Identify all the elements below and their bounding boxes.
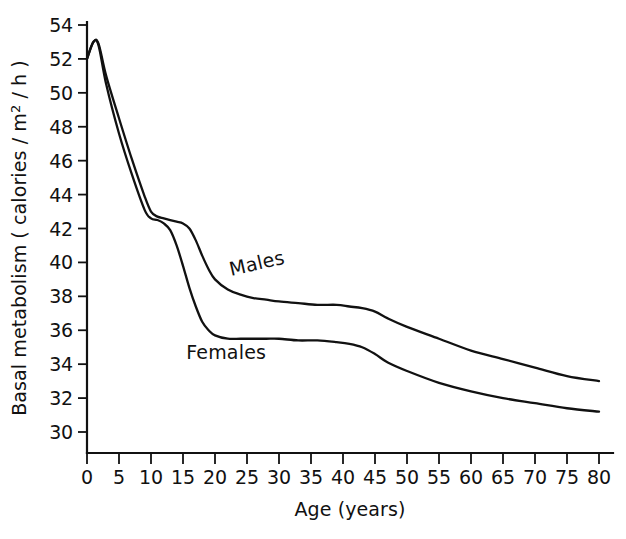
x-tick-label: 80 — [587, 466, 611, 488]
series-line-females — [87, 40, 599, 412]
x-tick-label: 10 — [139, 466, 163, 488]
y-tick-label: 38 — [49, 285, 73, 307]
x-tick-label: 55 — [427, 466, 451, 488]
x-tick-label: 25 — [235, 466, 259, 488]
x-axis-title: Age (years) — [295, 498, 406, 520]
x-tick-label: 75 — [555, 466, 579, 488]
axes-group — [87, 22, 613, 453]
y-tick-label: 30 — [49, 421, 73, 443]
y-axis-title-suffix: / h ) — [8, 60, 30, 105]
y-tick-label: 34 — [49, 353, 73, 375]
x-tick-label: 15 — [171, 466, 195, 488]
y-tick-label: 32 — [49, 387, 73, 409]
x-tick-label: 40 — [331, 466, 355, 488]
x-tick-label: 45 — [363, 466, 387, 488]
basal-metabolism-line-chart: 30323436384042444648505254 0510152025303… — [0, 0, 626, 539]
figure-container: 30323436384042444648505254 0510152025303… — [0, 0, 626, 539]
y-axis-title: Basal metabolism ( calories / m2 / h ) — [8, 60, 30, 416]
series-labels-group: Males Females — [186, 246, 286, 363]
x-tick-label: 30 — [267, 466, 291, 488]
series-line-males — [87, 40, 599, 381]
y-tick-label: 42 — [49, 218, 73, 240]
y-tick-label: 36 — [49, 319, 73, 341]
y-tick-label: 54 — [49, 14, 73, 36]
series-label-males: Males — [227, 246, 286, 280]
y-axis-ticks: 30323436384042444648505254 — [49, 14, 87, 443]
y-tick-label: 50 — [49, 82, 73, 104]
x-tick-label: 35 — [299, 466, 323, 488]
y-tick-label: 48 — [49, 116, 73, 138]
series-group — [87, 40, 599, 412]
x-tick-label: 60 — [459, 466, 483, 488]
x-tick-label: 65 — [491, 466, 515, 488]
series-label-females: Females — [186, 341, 266, 363]
x-axis-ticks: 05101520253035404550556065707580 — [81, 453, 611, 488]
y-axis-title-superscript: 2 — [8, 105, 23, 113]
y-axis-title-prefix: Basal metabolism ( calories / m — [8, 113, 30, 416]
y-tick-label: 46 — [49, 150, 73, 172]
x-tick-label: 20 — [203, 466, 227, 488]
y-axis-title-group: Basal metabolism ( calories / m2 / h ) — [8, 60, 30, 416]
page-edge-artifact — [0, 533, 626, 539]
y-tick-label: 44 — [49, 184, 73, 206]
y-tick-label: 52 — [49, 48, 73, 70]
x-tick-label: 70 — [523, 466, 547, 488]
y-tick-label: 40 — [49, 251, 73, 273]
x-tick-label: 0 — [81, 466, 93, 488]
x-tick-label: 50 — [395, 466, 419, 488]
x-tick-label: 5 — [113, 466, 125, 488]
